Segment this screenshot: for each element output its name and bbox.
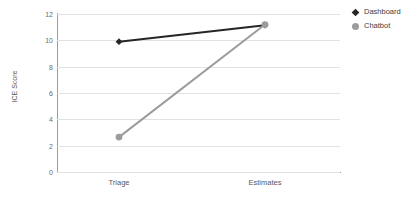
series-line-chatbot [119,25,265,138]
legend-item-chatbot[interactable]: Chatbot [352,22,401,30]
diamond-marker-icon [352,8,360,16]
legend: DashboardChatbot [352,8,401,30]
series-layer [0,0,417,200]
circle-marker-icon [116,134,123,141]
series-line-dashboard [119,25,265,41]
legend-item-label: Chatbot [364,22,390,30]
circle-marker-icon [352,23,359,30]
circle-marker-icon [262,21,269,28]
diamond-marker-icon [116,38,123,45]
legend-item-dashboard[interactable]: Dashboard [352,8,401,16]
line-chart: ICE Score 024681012 TriageEstimates Dash… [0,0,417,200]
x-axis-tick-label: Triage [109,178,130,187]
x-axis-tick-label: Estimates [249,178,282,187]
legend-item-label: Dashboard [364,8,401,16]
